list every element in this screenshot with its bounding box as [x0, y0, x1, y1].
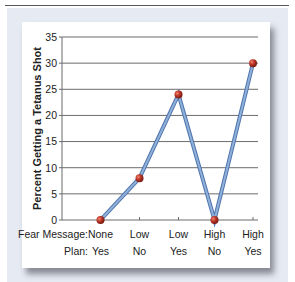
data-point-marker: [211, 216, 219, 224]
y-tick-label: 30: [45, 57, 57, 69]
y-tick-label: 15: [45, 135, 57, 147]
y-tick-label: 20: [45, 109, 57, 121]
y-tick-label: 5: [51, 188, 57, 200]
line-chart: 05101520253035 Fear Message:Plan:NoneYes…: [0, 0, 295, 282]
fear-message-row-label: Fear Message:: [18, 228, 88, 240]
plan-label: Yes: [244, 245, 261, 257]
plan-row-label: Plan:: [64, 245, 88, 257]
plan-label: No: [133, 245, 147, 257]
fear-message-label: Low: [169, 228, 189, 240]
plan-label: Yes: [170, 245, 187, 257]
fear-message-label: High: [242, 228, 264, 240]
data-point-marker: [97, 216, 105, 224]
data-point-marker: [249, 59, 257, 67]
y-tick-label: 0: [51, 214, 57, 226]
data-point-marker: [175, 91, 183, 99]
y-tick-label: 10: [45, 162, 57, 174]
plan-label: No: [208, 245, 222, 257]
y-tick-label: 35: [45, 31, 57, 43]
plan-label: Yes: [92, 245, 109, 257]
fear-message-label: None: [88, 228, 113, 240]
fear-message-label: High: [204, 228, 226, 240]
fear-message-label: Low: [130, 228, 150, 240]
y-axis-ticks: 05101520253035: [45, 31, 62, 226]
data-point-marker: [136, 174, 144, 182]
y-axis-title: Percent Getting a Tetanus Shot: [31, 47, 43, 210]
gridlines: [62, 37, 258, 220]
x-axis-labels: Fear Message:Plan:NoneYesLowNoLowYesHigh…: [18, 228, 264, 257]
y-tick-label: 25: [45, 83, 57, 95]
